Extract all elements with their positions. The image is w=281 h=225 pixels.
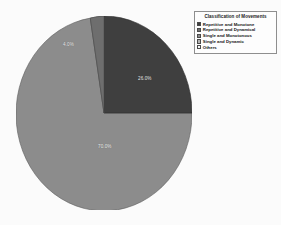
legend-swatch-icon [197,34,201,38]
legend-item-repetitive-and-monotone[interactable]: Repetitive and Monotone [197,21,274,26]
legend-item-single-and-monotonous[interactable]: Single and Monotonous [197,33,274,38]
legend-swatch-icon [197,45,201,49]
legend-item-label: Repetitive and Monotone [203,22,255,27]
pie-chart-figure: 70.0% 26.0% 4.0% Classification of Movem… [0,0,281,225]
legend-item-single-and-dynamic[interactable]: Single and Dynamic [197,39,274,44]
legend-item-repetitive-and-dynamical[interactable]: Repetitive and Dynamical [197,27,274,32]
legend-item-label: Single and Monotonous [203,33,252,38]
legend-item-label: Single and Dynamic [203,39,244,44]
legend-item-label: Others [203,45,217,50]
legend-item-others[interactable]: Others [197,45,274,50]
legend-item-label: Repetitive and Dynamical [203,27,256,32]
pie-plot-area: 70.0% 26.0% 4.0% [16,16,192,210]
pie-slice-repetitive-and-monotone[interactable] [104,16,192,113]
legend-swatch-icon [197,39,201,43]
chart-legend: Classification of Movements Repetitive a… [194,11,277,54]
pie-svg [16,16,192,210]
legend-swatch-icon [197,28,201,32]
legend-swatch-icon [197,22,201,26]
legend-title: Classification of Movements [197,14,274,19]
